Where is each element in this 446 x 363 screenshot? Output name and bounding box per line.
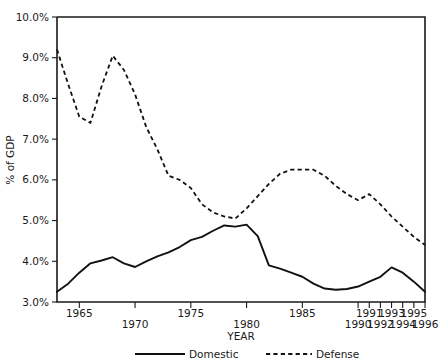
x-tick-label: 1965 <box>66 307 93 319</box>
x-axis-title: YEAR <box>226 330 255 342</box>
y-tick-label: 10.0% <box>16 11 49 23</box>
x-tick-label: 1970 <box>122 318 149 330</box>
y-tick-label: 8.0% <box>22 92 49 104</box>
y-tick-label: 7.0% <box>22 133 49 145</box>
y-tick-label: 6.0% <box>22 173 49 185</box>
y-tick-label: 9.0% <box>22 51 49 63</box>
x-tick-label: 1980 <box>233 318 260 330</box>
figure-container: 3.0%4.0%5.0%6.0%7.0%8.0%9.0%10.0% 196519… <box>0 0 446 363</box>
legend-label-domestic: Domestic <box>189 348 239 360</box>
y-axis-title: % of GDP <box>4 135 16 184</box>
x-tick-label: 1975 <box>177 307 204 319</box>
y-axis-ticks: 3.0%4.0%5.0%6.0%7.0%8.0%9.0%10.0% <box>16 11 57 308</box>
legend-label-defense: Defense <box>316 348 359 360</box>
x-tick-label: 1996 <box>412 318 439 330</box>
chart-legend: Domestic Defense <box>135 348 359 360</box>
series-line-domestic <box>57 225 425 292</box>
x-axis-ticks: 1965197019751980198519901991199219931994… <box>66 302 439 330</box>
line-chart: 3.0%4.0%5.0%6.0%7.0%8.0%9.0%10.0% 196519… <box>0 0 446 363</box>
series-line-defense <box>57 50 425 245</box>
y-tick-label: 4.0% <box>22 255 49 267</box>
x-tick-label: 1985 <box>289 307 316 319</box>
y-tick-label: 5.0% <box>22 214 49 226</box>
y-tick-label: 3.0% <box>22 296 49 308</box>
